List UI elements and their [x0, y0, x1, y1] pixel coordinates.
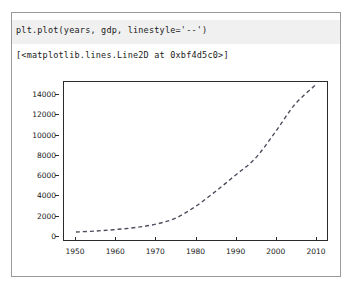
x-tick-label: 2010	[306, 247, 325, 256]
y-axis-ticks: 02000400060008000100001200014000	[20, 81, 56, 241]
y-tick-label: 10000	[32, 130, 56, 139]
x-tick-mark	[276, 237, 277, 241]
code-input-cell[interactable]: plt.plot(years, gdp, linestyle='--')	[12, 20, 340, 44]
matplotlib-figure: 02000400060008000100001200014000 1950196…	[12, 68, 342, 276]
y-tick-mark	[55, 114, 59, 115]
plot-axes-frame	[63, 81, 328, 241]
x-tick-mark	[75, 237, 76, 241]
x-tick-label: 1990	[226, 247, 245, 256]
x-tick-label: 1960	[106, 247, 125, 256]
code-output-text: [<matplotlib.lines.Line2D at 0xbf4d5c0>]	[16, 50, 229, 60]
x-tick-mark	[316, 237, 317, 241]
notebook-cell: plt.plot(years, gdp, linestyle='--') [<m…	[11, 12, 341, 277]
y-tick-mark	[55, 236, 59, 237]
y-tick-mark	[55, 195, 59, 196]
y-tick-mark	[55, 94, 59, 95]
y-tick-label: 12000	[32, 110, 56, 119]
y-tick-label: 8000	[37, 150, 56, 159]
x-tick-mark	[115, 237, 116, 241]
y-tick-label: 2000	[37, 211, 56, 220]
x-tick-label: 1980	[186, 247, 205, 256]
x-tick-mark	[236, 237, 237, 241]
y-tick-mark	[55, 216, 59, 217]
gdp-line-series	[64, 82, 327, 240]
x-tick-label: 1950	[65, 247, 84, 256]
y-tick-label: 14000	[32, 90, 56, 99]
x-tick-mark	[155, 237, 156, 241]
y-tick-mark	[55, 135, 59, 136]
y-tick-label: 4000	[37, 191, 56, 200]
x-axis-ticks: 1950196019701980199020002010	[63, 241, 328, 265]
code-input-text: plt.plot(years, gdp, linestyle='--')	[16, 25, 207, 35]
x-tick-label: 2000	[266, 247, 285, 256]
x-tick-mark	[196, 237, 197, 241]
y-tick-label: 6000	[37, 171, 56, 180]
y-tick-mark	[55, 175, 59, 176]
x-tick-label: 1970	[146, 247, 165, 256]
y-tick-mark	[55, 155, 59, 156]
